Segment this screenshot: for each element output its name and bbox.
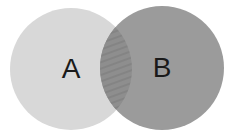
set-a-label: A <box>62 53 81 84</box>
venn-svg: A B <box>0 0 236 140</box>
set-b-label: B <box>153 52 172 83</box>
venn-diagram: A B <box>0 0 236 140</box>
